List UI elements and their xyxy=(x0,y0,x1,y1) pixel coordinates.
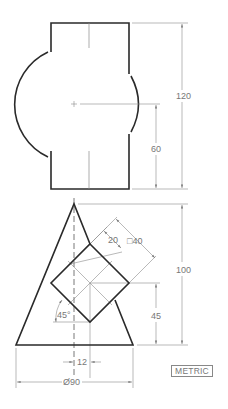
dim-40-text: □40 xyxy=(127,236,142,246)
dim-45deg-text: 45° xyxy=(57,310,71,320)
dim-120-text: 120 xyxy=(176,91,191,101)
front-view: 20 □40 45° 100 45 12 Ø90 xyxy=(16,198,191,388)
top-view-outline-bottom xyxy=(51,134,129,189)
dim-100-text: 100 xyxy=(176,265,191,275)
dim-60-text: 60 xyxy=(151,144,161,154)
top-view-left-arc xyxy=(15,52,48,157)
dim-12-text: 12 xyxy=(77,357,87,367)
ext-40-b xyxy=(129,256,156,283)
dim-20-text: 20 xyxy=(108,235,118,245)
dim-45-text: 45 xyxy=(151,311,161,321)
top-view: 120 60 xyxy=(15,23,191,189)
triangle-outline xyxy=(16,204,133,345)
units-label: METRIC xyxy=(171,365,213,377)
top-view-outline-top xyxy=(51,23,129,74)
technical-drawing: 120 60 20 □40 45° xyxy=(0,0,228,409)
ext-20-b xyxy=(70,252,122,264)
dim-90-text: Ø90 xyxy=(63,377,80,387)
